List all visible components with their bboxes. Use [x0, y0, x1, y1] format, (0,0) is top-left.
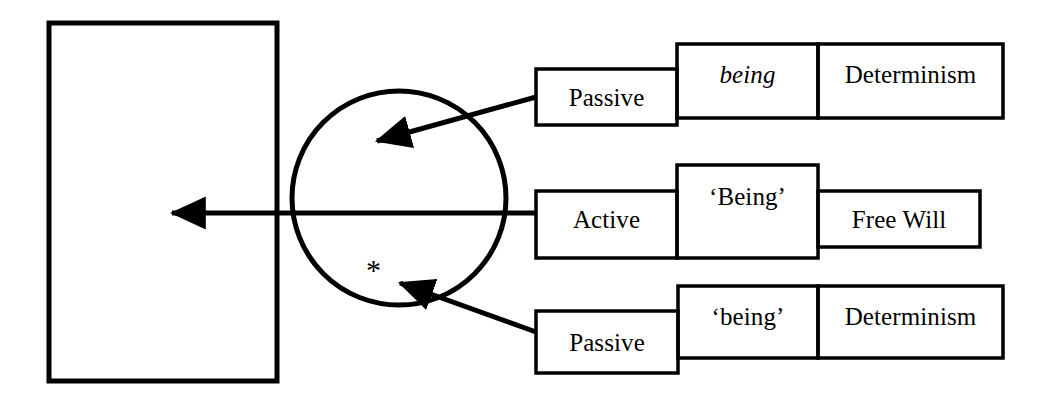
- label-row-top-term: being: [677, 44, 818, 104]
- label-row-bottom-term: ‘being’: [678, 286, 818, 346]
- label-row-bottom-voice: Passive: [536, 311, 678, 373]
- label-row-middle-outcome: Free Will: [818, 191, 980, 247]
- label-row-middle-term: ‘Being’: [677, 165, 818, 227]
- central-circle-area: [292, 91, 506, 305]
- label-row-bottom-outcome: Determinism: [818, 286, 1003, 346]
- diagram-canvas: Passive being Determinism Active ‘Being’…: [0, 0, 1056, 398]
- label-row-top-voice: Passive: [536, 69, 677, 125]
- empty-target-rectangle-area: [49, 23, 277, 381]
- label-row-top-outcome: Determinism: [818, 44, 1003, 104]
- label-row-middle-voice: Active: [536, 191, 677, 247]
